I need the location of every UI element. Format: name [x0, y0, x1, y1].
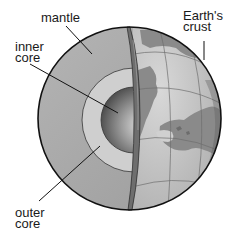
- earth-cutaway-illustration: [0, 0, 232, 231]
- inner-core-label: inner core: [15, 41, 44, 63]
- globe-surface: [130, 20, 230, 220]
- earths-crust-label: Earth's crust: [183, 10, 223, 32]
- outer-core-label: outer core: [15, 207, 45, 229]
- mantle-label: mantle: [41, 12, 80, 23]
